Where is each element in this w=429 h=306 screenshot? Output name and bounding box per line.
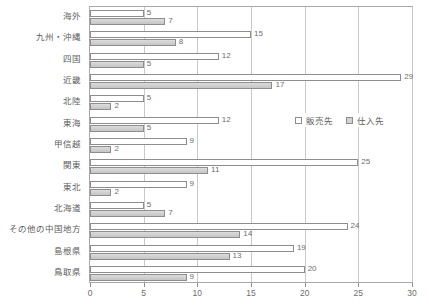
x-tick-mark (412, 283, 413, 287)
x-tick-label: 30 (400, 289, 424, 298)
x-tick-label: 15 (239, 289, 263, 298)
category-label: 甲信越 (0, 140, 85, 149)
category-label: 関東 (0, 161, 85, 170)
category-label: 北陸 (0, 97, 85, 106)
category-label: 東北 (0, 183, 85, 192)
x-tick-label: 0 (78, 289, 102, 298)
category-label: 東海 (0, 119, 85, 128)
x-tick-label: 5 (132, 289, 156, 298)
category-label: 海外 (0, 12, 85, 21)
x-tick-label: 10 (185, 289, 209, 298)
x-tick-mark (144, 283, 145, 287)
chart-legend: 販売先 仕入先 (293, 113, 386, 127)
x-tick-mark (90, 283, 91, 287)
x-tick-label: 20 (293, 289, 317, 298)
legend-label-sales: 販売先 (306, 114, 333, 126)
x-tick-mark (305, 283, 306, 287)
legend-swatch-purchase-icon (346, 117, 353, 124)
x-tick-label: 25 (346, 289, 370, 298)
category-axis-labels: 海外九州・沖縄四国近畿北陸東海甲信越関東東北北海道その他の中国地方島根県鳥取県 (0, 6, 429, 283)
category-label: 四国 (0, 55, 85, 64)
category-label: 北海道 (0, 204, 85, 213)
category-label: 島根県 (0, 247, 85, 256)
category-label: その他の中国地方 (0, 225, 85, 234)
category-label: 九州・沖縄 (0, 33, 85, 42)
x-axis: 051015202530 (0, 283, 429, 306)
x-tick-mark (251, 283, 252, 287)
category-label: 近畿 (0, 76, 85, 85)
horizontal-bar-chart: 57158125291752125922511925724141913209 海… (0, 0, 429, 306)
x-tick-mark (358, 283, 359, 287)
x-tick-mark (197, 283, 198, 287)
legend-item-purchase: 仕入先 (346, 114, 384, 126)
legend-label-purchase: 仕入先 (357, 114, 384, 126)
category-label: 鳥取県 (0, 268, 85, 277)
legend-swatch-sales-icon (295, 117, 302, 124)
legend-item-sales: 販売先 (295, 114, 333, 126)
